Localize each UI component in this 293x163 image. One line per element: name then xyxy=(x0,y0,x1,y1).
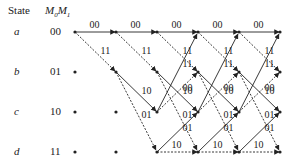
node-a-3 xyxy=(196,30,199,33)
node-d-5 xyxy=(278,150,281,153)
branch-output-label: 01 xyxy=(142,109,152,120)
node-b-3 xyxy=(196,70,199,73)
node-a-5 xyxy=(278,30,281,33)
branch-output-label: 10 xyxy=(254,139,264,150)
branch-output-label: 00 xyxy=(224,82,234,93)
branch-output-label: 00 xyxy=(131,19,141,30)
branch-output-label: 11 xyxy=(265,58,275,69)
node-a-4 xyxy=(237,30,240,33)
node-c-2 xyxy=(155,110,158,113)
node-c-1 xyxy=(114,110,117,113)
node-b-1 xyxy=(114,70,117,73)
branch-output-label: 01 xyxy=(224,122,234,133)
node-b-4 xyxy=(237,70,240,73)
node-a-2 xyxy=(155,30,158,33)
branch-output-label: 00 xyxy=(183,82,193,93)
node-c-4 xyxy=(237,110,240,113)
branch-output-label: 01 xyxy=(265,122,275,133)
branch-output-label: 00 xyxy=(213,19,223,30)
node-b-0 xyxy=(73,70,76,73)
branch-output-label: 11 xyxy=(224,45,234,56)
trellis-diagram: 0011001110010011100111000110001110011100… xyxy=(0,0,293,163)
node-d-2 xyxy=(155,150,158,153)
branch-output-label: 10 xyxy=(142,85,152,96)
branch-output-label: 00 xyxy=(265,82,275,93)
branch-output-label: 11 xyxy=(265,45,275,56)
node-d-0 xyxy=(73,150,76,153)
branch-output-label: 00 xyxy=(172,19,182,30)
node-b-5 xyxy=(278,70,281,73)
branch-output-label: 01 xyxy=(224,109,234,120)
branch-output-label: 01 xyxy=(265,109,275,120)
branch-output-label: 00 xyxy=(90,19,100,30)
branch-output-label: 01 xyxy=(183,109,193,120)
branch-output-label: 01 xyxy=(183,122,193,133)
node-a-1 xyxy=(114,30,117,33)
branch-output-label: 10 xyxy=(213,139,223,150)
node-d-3 xyxy=(196,150,199,153)
branch-output-label: 11 xyxy=(101,45,111,56)
node-c-3 xyxy=(196,110,199,113)
node-b-2 xyxy=(155,70,158,73)
node-d-4 xyxy=(237,150,240,153)
node-c-5 xyxy=(278,110,281,113)
node-a-0 xyxy=(73,30,76,33)
node-c-0 xyxy=(73,110,76,113)
branch-output-label: 10 xyxy=(172,139,182,150)
branch-output-label: 00 xyxy=(254,19,264,30)
branch-output-label: 11 xyxy=(224,58,234,69)
branch-output-label: 11 xyxy=(183,58,193,69)
branch-output-label: 11 xyxy=(183,45,193,56)
branch-output-label: 11 xyxy=(142,45,152,56)
node-d-1 xyxy=(114,150,117,153)
